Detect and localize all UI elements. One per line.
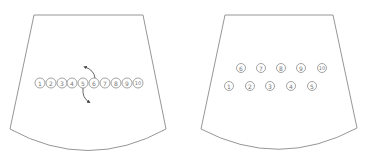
numbered-circle: 4	[67, 78, 77, 88]
circle-label: 5	[81, 80, 85, 87]
numbered-circle: 1	[225, 82, 234, 91]
circle-label: 6	[92, 80, 96, 87]
circle-label: 7	[103, 80, 107, 87]
circle-label: 8	[114, 80, 118, 87]
circle-label: 3	[60, 80, 64, 87]
numbered-circle: 9	[297, 64, 306, 73]
circle-label: 1	[227, 83, 231, 90]
numbered-circle: 7	[257, 64, 266, 73]
circle-label: 10	[135, 80, 141, 86]
circle-label: 9	[125, 80, 129, 87]
numbered-circle: 8	[111, 78, 121, 88]
numbered-circle: 7	[100, 78, 110, 88]
circle-label: 9	[299, 65, 303, 72]
circle-label: 2	[49, 80, 53, 87]
circle-label: 6	[239, 65, 243, 72]
numbered-circle: 6	[89, 78, 99, 88]
numbered-circle: 2	[46, 78, 56, 88]
numbered-circle: 3	[57, 78, 67, 88]
numbered-circle: 8	[277, 64, 286, 73]
numbered-circle: 5	[308, 82, 317, 91]
numbered-circle: 3	[266, 82, 275, 91]
circle-label: 4	[289, 83, 293, 90]
numbered-circle: 9	[122, 78, 132, 88]
circle-label: 2	[248, 83, 252, 90]
circle-label: 7	[259, 65, 263, 72]
diagram-canvas: 12345678910 67891012345	[0, 0, 368, 160]
circle-label: 10	[319, 65, 325, 71]
numbered-circle: 10	[318, 64, 327, 73]
left-panel: 12345678910	[10, 15, 166, 151]
right-fan-outline	[201, 15, 357, 149]
numbered-circle: 6	[237, 64, 246, 73]
numbered-circle: 2	[246, 82, 255, 91]
numbered-circle: 5	[78, 78, 88, 88]
circle-label: 3	[268, 83, 272, 90]
circle-label: 4	[70, 80, 74, 87]
numbered-circle: 4	[287, 82, 296, 91]
numbered-circle: 10	[133, 78, 143, 88]
circle-label: 1	[38, 80, 42, 87]
circle-label: 8	[279, 65, 283, 72]
right-panel: 67891012345	[201, 15, 357, 149]
circle-label: 5	[310, 83, 314, 90]
numbered-circle: 1	[35, 78, 45, 88]
